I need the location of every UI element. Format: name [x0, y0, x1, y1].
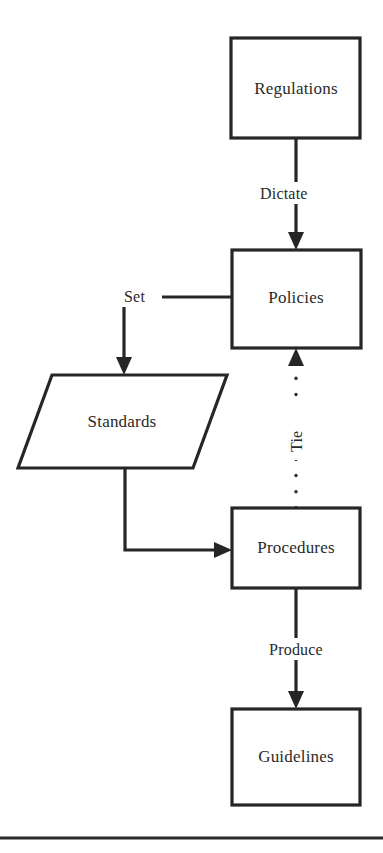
node-policies[interactable]: Policies — [232, 250, 361, 348]
node-procedures-label: Procedures — [257, 538, 335, 557]
node-procedures[interactable]: Procedures — [232, 508, 360, 588]
node-guidelines[interactable]: Guidelines — [232, 709, 360, 805]
edge-label-dictate: Dictate — [260, 185, 308, 202]
edge-standards-procedures — [125, 468, 232, 558]
node-regulations-label: Regulations — [254, 79, 337, 98]
node-guidelines-label: Guidelines — [258, 747, 334, 766]
edge-procedures-policies: Tie — [286, 348, 308, 508]
diagram-canvas: Dictate Set Tie Produce — [0, 0, 383, 853]
edge-policies-standards: Set — [116, 285, 232, 375]
node-standards-label: Standards — [88, 412, 157, 431]
node-standards[interactable]: Standards — [18, 375, 227, 468]
edge-regulations-policies: Dictate — [257, 138, 335, 250]
arrowhead-down-icon — [116, 357, 132, 375]
node-regulations[interactable]: Regulations — [231, 38, 360, 138]
arrowhead-down-icon — [288, 232, 304, 250]
arrowhead-up-icon — [288, 348, 304, 366]
edge-label-produce: Produce — [269, 641, 323, 658]
edge-label-set: Set — [124, 288, 145, 305]
flowchart-diagram: Dictate Set Tie Produce — [0, 0, 383, 853]
arrowhead-down-icon — [288, 691, 304, 709]
edge-line-standards-procedures — [125, 468, 222, 550]
edge-line-set — [124, 297, 232, 365]
arrowhead-right-icon — [214, 542, 232, 558]
edge-procedures-guidelines: Produce — [249, 588, 343, 709]
edge-label-tie: Tie — [288, 431, 305, 452]
node-policies-label: Policies — [268, 288, 323, 307]
